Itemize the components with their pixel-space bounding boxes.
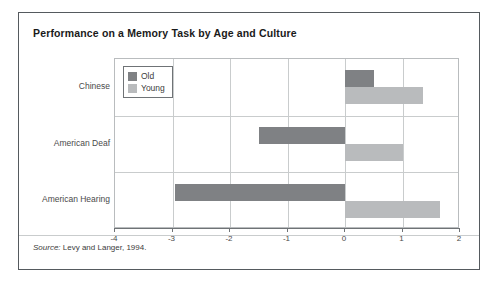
y-axis-label-chinese: Chinese: [79, 58, 110, 115]
figure-frame: Performance on a Memory Task by Age and …: [18, 12, 480, 270]
gridline-horizontal: [115, 172, 458, 173]
legend-swatch-young-icon: [128, 84, 137, 93]
x-axis-tick: [344, 228, 345, 232]
x-axis-tick: [459, 228, 460, 232]
bar-american-hearing-old: [175, 184, 345, 201]
legend-item-old: Old: [128, 70, 165, 82]
x-axis-tick: [402, 228, 403, 232]
bar-chinese-old: [345, 70, 374, 87]
source-separator: [19, 235, 479, 236]
bar-american-deaf-old: [259, 127, 345, 144]
bar-american-deaf-young: [345, 144, 403, 161]
source-text: Levy and Langer, 1994.: [61, 243, 147, 252]
y-axis-label-american-hearing: American Hearing: [42, 171, 110, 228]
page-title: Performance on a Memory Task by Age and …: [33, 27, 297, 39]
x-axis-tick: [229, 228, 230, 232]
chart-legend: OldYoung: [123, 66, 173, 98]
gridline-vertical: [230, 59, 231, 227]
bar-american-hearing-young: [345, 201, 440, 218]
x-axis-tick: [287, 228, 288, 232]
source-label: Source:: [33, 243, 61, 252]
gridline-horizontal: [115, 116, 458, 117]
bar-chinese-young: [345, 87, 423, 104]
legend-label: Young: [141, 83, 165, 93]
x-axis-tick: [172, 228, 173, 232]
y-axis-label-american-deaf: American Deaf: [54, 115, 110, 172]
legend-label: Old: [141, 71, 154, 81]
legend-swatch-old-icon: [128, 72, 137, 81]
y-axis-category-labels: ChineseAmerican DeafAmerican Hearing: [34, 58, 110, 228]
x-axis-tick: [114, 228, 115, 232]
source-note: Source: Levy and Langer, 1994.: [33, 243, 146, 252]
chart-plot: ChineseAmerican DeafAmerican Hearing Old…: [114, 58, 459, 228]
legend-item-young: Young: [128, 82, 165, 94]
